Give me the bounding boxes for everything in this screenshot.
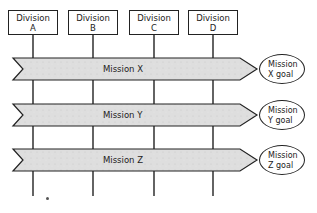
mission-x-label: Mission X [103,64,143,74]
mission-y-goal: Mission Y goal [259,100,305,130]
division-d-letter: D [189,23,237,33]
mission-z-goal-line2: Z goal [268,161,304,171]
print-speck [46,197,49,200]
division-b-letter: B [69,23,117,33]
division-a-label: Division [9,13,57,23]
division-a-letter: A [9,23,57,33]
division-c-label: Division [130,13,178,23]
division-c-letter: C [130,23,178,33]
mission-z-label: Mission Z [103,155,143,165]
mission-x-goal-line1: Mission [268,60,304,70]
division-b-label: Division [69,13,117,23]
mission-x-goal: Mission X goal [259,54,305,84]
mission-y-goal-line1: Mission [268,106,304,116]
division-d-box: Division D [188,10,238,35]
division-c-box: Division C [129,10,179,35]
mission-z-goal: Mission Z goal [259,145,305,175]
mission-y-goal-line2: Y goal [268,116,304,126]
division-d-label: Division [189,13,237,23]
mission-y-label: Mission Y [103,110,142,120]
division-a-box: Division A [8,10,58,35]
mission-z-goal-line1: Mission [268,151,304,161]
division-b-box: Division B [68,10,118,35]
mission-x-goal-line2: X goal [268,70,304,80]
